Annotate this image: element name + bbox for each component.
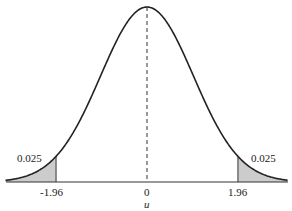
right-tail-label: 0.025 xyxy=(251,153,276,164)
tick-label-center: 0 xyxy=(144,187,150,198)
tick-label-right: 1.96 xyxy=(228,187,247,198)
normal-curve-plot xyxy=(0,0,292,211)
x-axis-label: u xyxy=(144,199,150,210)
left-tail-label: 0.025 xyxy=(17,153,42,164)
tick-label-left: -1.96 xyxy=(40,187,63,198)
